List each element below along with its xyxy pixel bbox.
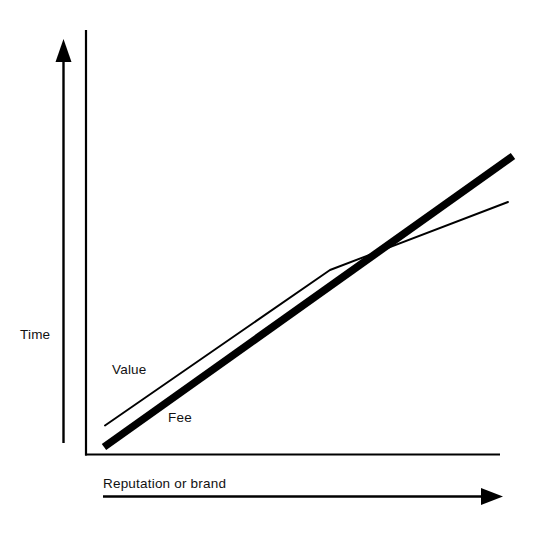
y-axis-arrow-group xyxy=(56,39,72,443)
x-axis-label: Reputation or brand xyxy=(103,476,226,491)
series-label-fee: Fee xyxy=(168,410,192,425)
arrow-right-icon xyxy=(481,488,503,505)
arrow-up-icon xyxy=(56,39,72,62)
chart-figure: Time Value Fee Reputation or brand xyxy=(0,0,534,533)
series-line-fee xyxy=(104,156,513,447)
y-axis-label: Time xyxy=(20,327,50,342)
series-label-value: Value xyxy=(112,362,147,377)
chart-axes xyxy=(85,30,500,456)
series-line-value xyxy=(105,202,508,426)
chart-canvas xyxy=(0,0,534,533)
